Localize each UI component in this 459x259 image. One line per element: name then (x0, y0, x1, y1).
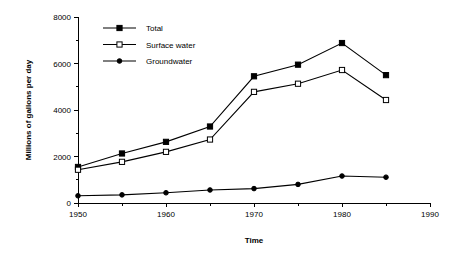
data-point (384, 175, 389, 180)
data-point (295, 81, 300, 86)
y-axis-title: Millions of gallons per day (24, 59, 33, 160)
data-point (296, 182, 301, 187)
data-point (295, 62, 300, 67)
data-point (207, 137, 212, 142)
y-tick-label: 4000 (53, 106, 71, 115)
legend-marker (117, 59, 122, 64)
y-tick-label: 2000 (53, 153, 71, 162)
chart-background (0, 0, 459, 259)
data-point (75, 167, 80, 172)
y-tick-label: 0 (67, 199, 72, 208)
data-point (339, 67, 344, 72)
data-point (339, 40, 344, 45)
data-point (383, 97, 388, 102)
line-chart-figure: 02000400060008000 19501960197019801990 M… (0, 0, 459, 259)
x-tick-label: 1980 (333, 210, 351, 219)
x-tick-label: 1960 (157, 210, 175, 219)
data-point (120, 193, 125, 198)
data-point (119, 151, 124, 156)
data-point (252, 186, 257, 191)
data-point (163, 149, 168, 154)
legend-label: Groundwater (146, 57, 193, 66)
legend-marker (117, 25, 122, 30)
data-point (251, 89, 256, 94)
legend-label: Total (146, 24, 163, 33)
data-point (119, 159, 124, 164)
data-point (208, 188, 213, 193)
x-axis-title: Time (245, 236, 264, 245)
legend-label: Surface water (146, 41, 196, 50)
y-tick-label: 6000 (53, 60, 71, 69)
data-point (340, 174, 345, 179)
data-point (383, 73, 388, 78)
data-point (164, 190, 169, 195)
legend-marker (117, 42, 122, 47)
data-point (76, 193, 81, 198)
data-point (251, 74, 256, 79)
x-tick-label: 1970 (245, 210, 263, 219)
data-point (163, 139, 168, 144)
x-tick-label: 1950 (69, 210, 87, 219)
y-tick-label: 8000 (53, 13, 71, 22)
x-tick-label: 1990 (421, 210, 439, 219)
data-point (207, 124, 212, 129)
